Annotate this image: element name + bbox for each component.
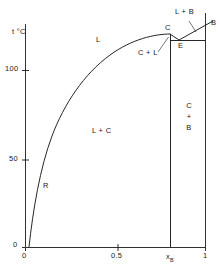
y-tick-label-0: 0 [13, 241, 17, 249]
region-label-c-plus-b-line3: B [184, 123, 194, 134]
x-axis-title-sub: B [170, 257, 174, 263]
x-tick-label-1: 1 [203, 252, 207, 260]
c-plus-l-leader-line [158, 37, 169, 52]
x-axis-title: xB [166, 253, 174, 263]
point-label-c: C [165, 24, 171, 32]
region-label-liquid-plus-c: L + C [92, 127, 111, 135]
liquidus-branch-b-to-e [170, 21, 213, 40]
region-label-l-plus-b: L + B [175, 8, 194, 16]
point-label-e: E [178, 42, 183, 50]
y-axis-title: t °C [12, 28, 26, 36]
phase-diagram-figure: t °C 0 50 100 0 0.5 1 xB L L + C C + L L… [0, 0, 220, 268]
y-tick-label-50: 50 [9, 155, 18, 163]
y-tick-label-100: 100 [5, 65, 18, 73]
region-label-liquid: L [96, 36, 100, 44]
point-label-b: B [211, 19, 216, 27]
region-label-c-plus-b: C + B [184, 101, 194, 134]
point-label-r: R [43, 182, 49, 190]
region-label-c-plus-b-line1: C [184, 101, 194, 112]
l-plus-b-leader-line [189, 21, 196, 32]
liquidus-curve-r-to-c [29, 34, 170, 247]
x-tick-label-0: 0 [22, 252, 26, 260]
region-label-c-plus-b-line2: + [184, 112, 194, 123]
x-tick-label-half: 0.5 [111, 252, 122, 260]
region-label-c-plus-l: C + L [138, 49, 158, 57]
